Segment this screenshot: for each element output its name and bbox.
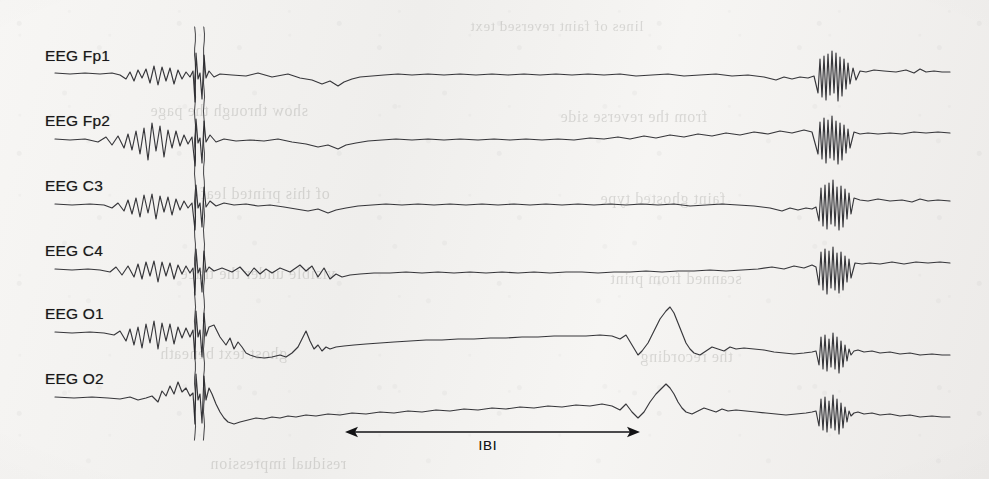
channel-label-o2: EEG O2: [45, 370, 104, 388]
eeg-figure: lines of faint reversed textshow through…: [0, 0, 989, 479]
channel-label-fp2: EEG Fp2: [45, 112, 110, 130]
channel-label-fp1: EEG Fp1: [45, 47, 110, 65]
channel-label-o1: EEG O1: [45, 305, 104, 323]
trace-c4: [55, 247, 950, 295]
trace-o2: [55, 374, 950, 434]
trace-o1: [55, 307, 950, 373]
channel-label-c3: EEG C3: [45, 177, 103, 195]
trace-fp2: [55, 116, 950, 166]
trace-c3: [55, 180, 950, 230]
ibi-annotation-label: IBI: [479, 438, 498, 453]
trace-fp1: [55, 51, 950, 102]
eeg-trace-layer: [0, 0, 989, 479]
channel-label-c4: EEG C4: [45, 242, 103, 260]
